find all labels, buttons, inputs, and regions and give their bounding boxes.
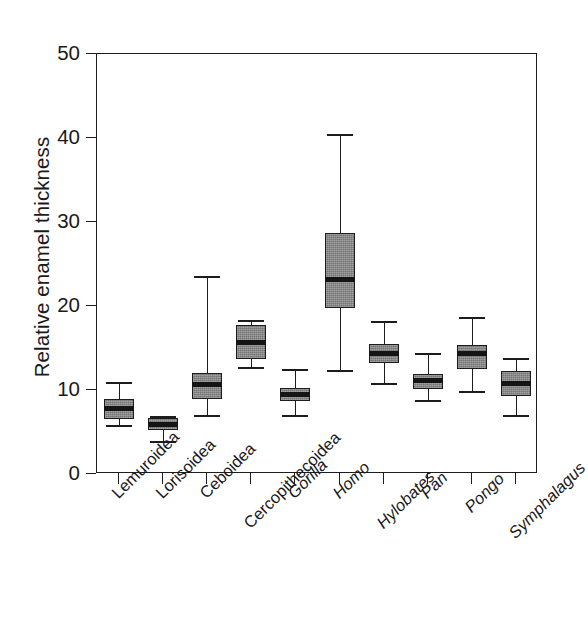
- y-tick: 10: [86, 389, 96, 390]
- lower-whisker: [384, 363, 385, 383]
- upper-whisker: [428, 353, 429, 374]
- lower-whisker-cap: [371, 383, 397, 385]
- median-line: [236, 340, 266, 345]
- lower-whisker-cap: [503, 415, 529, 417]
- y-tick: 50: [86, 53, 96, 54]
- upper-whisker: [340, 134, 341, 233]
- median-line: [104, 406, 134, 411]
- upper-whisker: [119, 382, 120, 399]
- upper-whisker-cap: [371, 321, 397, 323]
- lower-whisker-cap: [415, 400, 441, 402]
- y-tick: 40: [86, 137, 96, 138]
- lower-whisker: [516, 396, 517, 415]
- x-tick: [471, 473, 472, 484]
- y-tick: 20: [86, 305, 96, 306]
- upper-whisker-cap: [459, 317, 485, 319]
- lower-whisker-cap: [459, 391, 485, 393]
- upper-whisker-cap: [415, 353, 441, 355]
- lower-whisker: [340, 308, 341, 370]
- median-line: [369, 351, 399, 356]
- y-tick-label: 0: [69, 462, 80, 484]
- x-tick: [383, 473, 384, 484]
- median-line: [325, 277, 355, 282]
- upper-whisker-cap: [194, 276, 220, 278]
- y-tick-label: 10: [57, 378, 80, 400]
- upper-whisker: [384, 321, 385, 344]
- lower-whisker: [472, 369, 473, 391]
- lower-whisker-cap: [282, 415, 308, 417]
- median-line: [501, 381, 531, 386]
- lower-whisker-cap: [238, 367, 264, 369]
- plot-area: [96, 53, 537, 473]
- upper-whisker-cap: [238, 320, 264, 322]
- y-tick-label: 30: [57, 210, 80, 232]
- median-line: [413, 378, 443, 383]
- upper-whisker-cap: [503, 358, 529, 360]
- y-axis-title: Relative enamel thickness: [30, 47, 54, 467]
- x-tick: [250, 473, 251, 484]
- y-tick-label: 50: [57, 42, 80, 64]
- lower-whisker-cap: [106, 425, 132, 427]
- iqr-box: [457, 345, 487, 369]
- upper-whisker: [207, 276, 208, 373]
- lower-whisker: [295, 401, 296, 415]
- median-line: [457, 351, 487, 356]
- upper-whisker-cap: [327, 134, 353, 136]
- lower-whisker-cap: [194, 415, 220, 417]
- lower-whisker: [428, 389, 429, 400]
- lower-whisker: [207, 399, 208, 415]
- lower-whisker: [119, 419, 120, 426]
- y-tick-label: 40: [57, 126, 80, 148]
- median-line: [280, 392, 310, 397]
- median-line: [192, 382, 222, 387]
- lower-whisker-cap: [327, 370, 353, 372]
- median-line: [148, 422, 178, 427]
- upper-whisker: [295, 369, 296, 388]
- upper-whisker: [472, 317, 473, 345]
- x-tick: [515, 473, 516, 484]
- iqr-box: [325, 233, 355, 308]
- y-tick-label: 20: [57, 294, 80, 316]
- x-axis-label: Pongo: [461, 469, 507, 515]
- y-tick: 0: [86, 473, 96, 474]
- upper-whisker-cap: [106, 382, 132, 384]
- lower-whisker: [251, 359, 252, 367]
- y-tick: 30: [86, 221, 96, 222]
- upper-whisker-cap: [282, 369, 308, 371]
